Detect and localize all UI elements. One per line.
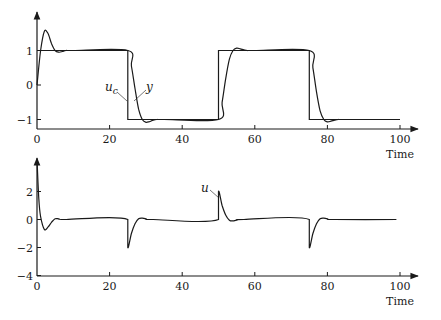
x-tick-label: 20 [103,133,117,146]
chart-figure: 020406080100−101 uc y Time 020406080100−… [0,0,441,320]
svg-text:y: y [145,80,153,94]
output-signal-y [37,30,396,122]
bottom-plot: 020406080100−4−202 u Time [17,158,418,308]
x-tick-label: 0 [34,133,41,146]
y-tick-label: 2 [26,186,33,199]
x-tick-label: 20 [103,280,117,293]
y-tick-label: 0 [26,79,33,92]
y-tick-label: −4 [17,270,33,283]
svg-text:u: u [201,181,209,195]
reference-signal-uc [37,51,400,120]
label-uc: uc [105,80,127,101]
control-signal-u [37,159,396,248]
y-tick-label: −1 [17,114,33,127]
x-tick-label: 100 [390,133,411,146]
x-tick-label: 80 [320,133,334,146]
x-tick-label: 0 [34,280,41,293]
bottom-x-axis-title: Time [386,295,414,308]
top-x-axis-title: Time [386,148,414,161]
x-tick-label: 100 [390,280,411,293]
label-u: u [201,181,219,198]
x-tick-label: 60 [248,133,262,146]
top-axis-ticks: 020406080100−101 [17,45,411,147]
bottom-axis-ticks: 020406080100−4−202 [17,186,411,294]
top-plot: 020406080100−101 uc y Time [17,12,418,161]
x-tick-label: 80 [320,280,334,293]
y-tick-label: 1 [26,45,33,58]
x-tick-label: 40 [175,280,189,293]
y-tick-label: −2 [17,242,33,255]
x-tick-label: 40 [175,133,189,146]
x-tick-label: 60 [248,280,262,293]
svg-text:uc: uc [105,80,118,96]
y-tick-label: 0 [26,214,33,227]
